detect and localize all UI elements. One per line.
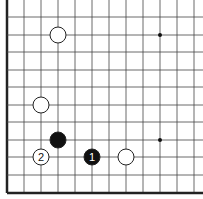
star-point-icon [158,33,162,37]
stones-layer: 21 [33,27,134,165]
black-stone-1[interactable]: 1 [84,149,100,165]
move-number-label: 1 [89,151,95,163]
white-stone[interactable] [118,149,134,165]
black-stone[interactable] [50,132,66,148]
move-number-label: 2 [38,151,44,163]
white-stone[interactable] [33,97,49,113]
white-stone-2[interactable]: 2 [33,149,49,165]
white-stone[interactable] [50,27,66,43]
go-board: 21 [0,0,203,199]
star-point-icon [158,138,162,142]
